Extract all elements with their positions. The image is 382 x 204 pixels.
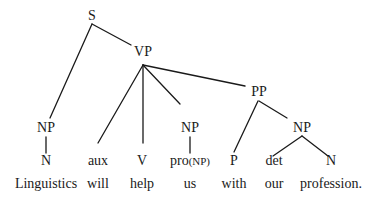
edge-np-n2 (302, 136, 328, 156)
category-pro-label: pro (170, 153, 189, 168)
edge-pp-np (259, 101, 287, 118)
category-aux: aux (88, 153, 108, 169)
node-np-object: NP (181, 120, 199, 136)
tree-edges (0, 0, 382, 204)
word-with: with (222, 176, 247, 192)
edge-vp-aux (98, 65, 143, 143)
edge-s-vp (92, 24, 131, 45)
category-pro-suffix: (NP) (189, 155, 210, 167)
category-n: N (41, 153, 51, 169)
word-linguistics: Linguistics (15, 176, 77, 192)
word-our: our (265, 176, 284, 192)
node-pp: PP (251, 84, 267, 100)
node-s: S (88, 8, 96, 24)
category-pro: pro(NP) (170, 153, 210, 169)
word-help: help (130, 176, 154, 192)
edge-s-np (50, 24, 92, 118)
word-us: us (184, 176, 196, 192)
category-n2: N (326, 153, 336, 169)
category-p: P (230, 153, 238, 169)
node-np-subject: NP (37, 120, 55, 136)
node-np-pp-object: NP (293, 120, 311, 136)
category-det: det (265, 153, 282, 169)
word-will: will (87, 176, 109, 192)
edge-vp-pp (143, 65, 245, 86)
edge-pp-p (234, 101, 258, 152)
node-vp: VP (134, 44, 152, 60)
word-profession: profession. (300, 176, 362, 192)
category-v: V (137, 153, 147, 169)
